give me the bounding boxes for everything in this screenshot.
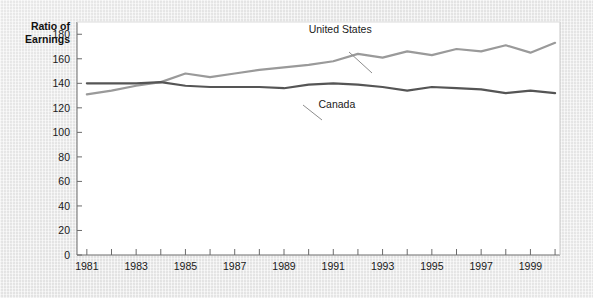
x-tick-label: 1993: [371, 260, 395, 272]
y-tick-label: 160: [52, 53, 70, 65]
y-tick-label: 140: [52, 77, 70, 89]
united-states-label: United States: [309, 23, 372, 35]
x-tick-label: 1997: [469, 260, 493, 272]
y-tick-label: 40: [58, 200, 70, 212]
x-tick-label: 1991: [322, 260, 346, 272]
y-tick-label: 80: [58, 151, 70, 163]
x-tick-label: 1981: [75, 260, 99, 272]
x-tick-label: 1985: [174, 260, 198, 272]
y-tick-label: 20: [58, 224, 70, 236]
y-axis-title-line2: Earnings: [25, 33, 70, 45]
y-tick-label: 120: [52, 102, 70, 114]
y-tick-label: 0: [64, 249, 70, 261]
x-tick-label: 1987: [223, 260, 247, 272]
chart-page: 020406080100120140160180 198119831985198…: [0, 0, 593, 298]
x-tick-label: 1989: [272, 260, 296, 272]
line-chart: 020406080100120140160180 198119831985198…: [0, 0, 593, 298]
x-tick-label: 1999: [519, 260, 543, 272]
y-tick-label: 60: [58, 175, 70, 187]
canada-label: Canada: [319, 98, 356, 110]
plot-area-background: [77, 22, 560, 255]
x-tick-label: 1995: [420, 260, 444, 272]
x-tick-label: 1983: [124, 260, 148, 272]
y-tick-label: 100: [52, 126, 70, 138]
y-axis-title-line1: Ratio of: [31, 20, 71, 32]
